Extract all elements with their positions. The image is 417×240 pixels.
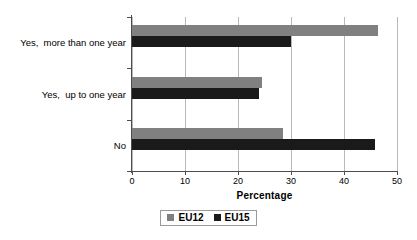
bar-eu15-2 <box>132 139 375 150</box>
bar-eu12-2 <box>132 128 283 139</box>
gridline <box>397 17 398 171</box>
legend-label-eu12: EU12 <box>178 212 203 223</box>
x-axis <box>131 171 398 172</box>
bar-eu15-1 <box>132 88 259 99</box>
category-label-1: Yes, up to one year <box>0 89 126 100</box>
bar-chart: 0 10 20 30 40 50 Yes, more than one year… <box>0 0 417 240</box>
bar-eu12-0 <box>132 25 378 36</box>
legend: EU12 EU15 <box>0 210 417 226</box>
bar-eu12-1 <box>132 77 262 88</box>
x-tick-label-50: 50 <box>377 176 417 187</box>
category-label-2: No <box>0 140 126 151</box>
legend-swatch-icon-eu12 <box>167 214 174 221</box>
x-axis-tick <box>132 171 133 175</box>
x-tick-label-20: 20 <box>218 176 258 187</box>
legend-item-eu15[interactable]: EU15 <box>214 212 250 223</box>
category-label-0: Yes, more than one year <box>0 37 126 48</box>
x-axis-tick <box>291 171 292 175</box>
legend-item-eu12[interactable]: EU12 <box>167 212 203 223</box>
x-axis-tick <box>185 171 186 175</box>
x-tick-label-40: 40 <box>324 176 364 187</box>
x-axis-tick <box>397 171 398 175</box>
x-axis-tick <box>344 171 345 175</box>
x-axis-tick <box>238 171 239 175</box>
x-tick-label-0: 0 <box>112 176 152 187</box>
legend-box: EU12 EU15 <box>160 210 256 226</box>
x-tick-label-10: 10 <box>165 176 205 187</box>
legend-label-eu15: EU15 <box>225 212 250 223</box>
y-axis-tick <box>127 17 132 18</box>
bar-eu15-0 <box>132 36 291 47</box>
y-axis-tick <box>127 120 132 121</box>
x-axis-title: Percentage <box>132 190 397 201</box>
legend-swatch-icon-eu15 <box>214 214 221 221</box>
x-tick-label-30: 30 <box>271 176 311 187</box>
y-axis-tick <box>127 68 132 69</box>
